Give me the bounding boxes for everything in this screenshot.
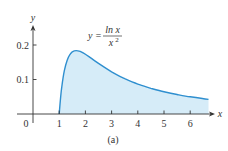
equation-lhs: y = [87, 30, 102, 41]
y-tick-label: 0.2 [17, 40, 30, 51]
equation-exponent: 2 [115, 36, 119, 44]
origin-label: 0 [24, 118, 29, 129]
x-tick-label: 5 [162, 118, 167, 129]
plot: 1 2 3 4 5 6 0 0.1 0.2 y x y = ln x x 2 (… [0, 0, 228, 151]
figure-caption: (a) [107, 134, 118, 146]
x-tick-label: 4 [135, 118, 140, 129]
equation-denominator: x [108, 37, 114, 48]
y-ticks [33, 45, 37, 80]
x-tick-label: 3 [109, 118, 114, 129]
figure: 1 2 3 4 5 6 0 0.1 0.2 y x y = ln x x 2 (… [0, 0, 228, 151]
y-tick-label: 0.1 [17, 74, 30, 85]
y-axis-label: y [30, 12, 36, 23]
x-tick-label: 6 [188, 118, 193, 129]
x-axis-label: x [217, 108, 223, 119]
x-tick-label: 2 [83, 118, 88, 129]
x-tick-label: 1 [57, 118, 62, 129]
equation: y = ln x x 2 [87, 24, 122, 48]
equation-numerator: ln x [105, 24, 120, 35]
